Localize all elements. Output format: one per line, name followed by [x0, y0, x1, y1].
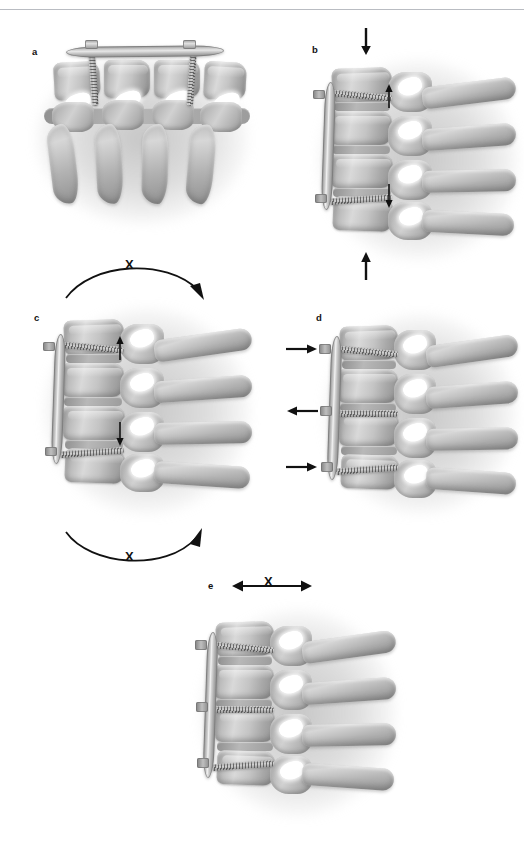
panel-d: d [286, 302, 524, 522]
panel-b: b [300, 26, 524, 276]
flexion-blocked-marker: X [125, 258, 134, 271]
shear-arrow-upper-icon [286, 342, 318, 356]
shear-arrow-lower-icon [286, 460, 318, 474]
figure-canvas: a [0, 0, 524, 859]
running-header [0, 0, 524, 12]
axial-load-arrow-bottom-icon [358, 252, 374, 280]
panel-c-segment-motion-arrow-lower-icon [115, 422, 125, 446]
flexion-arc-arrow-icon [62, 256, 212, 302]
panel-b-illustration [300, 26, 524, 276]
panel-c-illustration [20, 302, 264, 522]
header-divider [0, 9, 524, 10]
panel-e-screw-middle [212, 706, 274, 713]
extension-blocked-marker: X [125, 550, 134, 563]
panel-a: a [18, 32, 258, 232]
panel-a-illustration [18, 32, 258, 232]
panel-c: c [20, 302, 264, 522]
panel-d-screw-middle [336, 410, 398, 417]
shear-arrow-middle-icon [286, 404, 318, 418]
panel-c-segment-motion-arrow-upper-icon [115, 336, 125, 360]
panel-e-illustration [180, 574, 404, 824]
extension-arc-arrow-icon [62, 526, 212, 572]
segment-motion-arrow-lower-icon [384, 184, 394, 208]
segment-motion-arrow-upper-icon [384, 84, 394, 108]
panel-d-illustration [286, 302, 524, 522]
panel-e: e X [180, 574, 404, 824]
